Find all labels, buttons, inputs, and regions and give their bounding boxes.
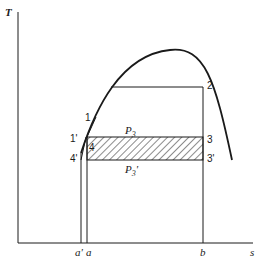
label-3: 3 [207,134,213,145]
tick-b: b [200,246,206,258]
hatched-area [87,137,203,160]
label-3-prime: 3' [207,153,215,164]
label-p3-prime: P3' [124,163,139,178]
y-axis-label: T [5,6,13,18]
label-1-prime: 1' [70,133,78,144]
label-2: 2 [207,80,213,91]
label-1: 1 [85,112,91,123]
x-axis-label: s [250,246,254,258]
tick-a-prime: a' [75,246,84,258]
ts-diagram: 1 1' 4 4' 2 3 3' P3 P3' T s a' a b [0,0,265,264]
label-4: 4 [89,142,95,153]
label-4-prime: 4' [70,153,78,164]
tick-a: a [86,246,92,258]
